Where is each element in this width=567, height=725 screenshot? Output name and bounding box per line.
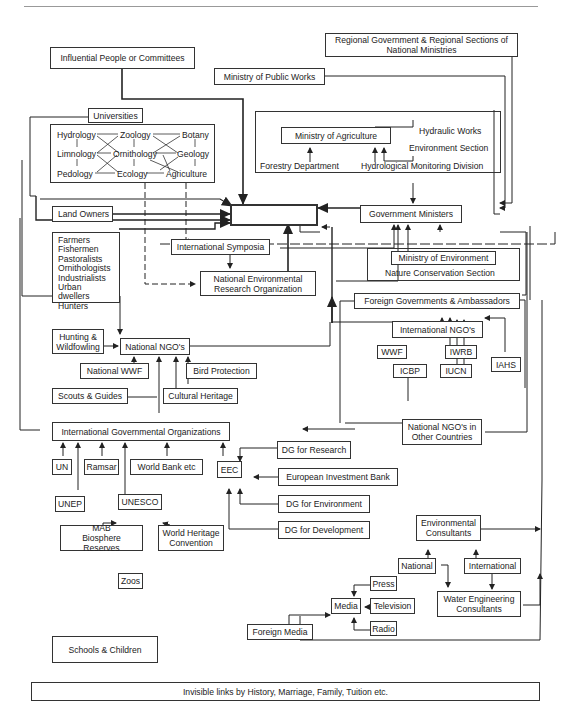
node-zoos: Zoos (118, 573, 143, 589)
node-un: UN (52, 459, 72, 475)
node-unesco: UNESCO (118, 494, 162, 510)
node-press: Press (370, 576, 397, 591)
node-european-investment-bank: European Investment Bank (278, 468, 398, 486)
node-unep: UNEP (55, 496, 85, 512)
node-hunting-wildfowling: Hunting & Wildfowling (52, 329, 104, 354)
node-eec: EEC (217, 461, 242, 478)
node-mab: MAB Biosphere Reserves (60, 525, 143, 551)
node-foreign-media: Foreign Media (247, 624, 313, 640)
node-hydrological-monitoring: Hydrological Monitoring Division (361, 161, 483, 171)
node-dg-environment: DG for Environment (278, 495, 370, 513)
node-env-consultants: Environmental Consultants (416, 515, 481, 541)
node-national-ngos: National NGO's (120, 338, 190, 355)
node-world-heritage: World Heritage Convention (158, 525, 224, 551)
node-ministry-environment: Ministry of Environment (391, 251, 496, 265)
node-icbp: ICBP (393, 364, 427, 378)
node-dg-research: DG for Research (277, 441, 351, 459)
node-international-symposia: International Symposia (171, 239, 270, 255)
node-cultural-heritage: Cultural Heritage (163, 388, 238, 404)
node-radio: Radio (370, 621, 397, 636)
node-international: International (464, 558, 521, 574)
node-ministry-agriculture: Ministry of Agriculture (281, 127, 391, 144)
node-hydraulic-works: Hydraulic Works (419, 126, 481, 136)
node-dg-development: DG for Development (278, 521, 370, 539)
node-water-engineering: Water Engineering Consultants (437, 591, 521, 617)
node-land-owners: Land Owners (52, 206, 113, 222)
node-government-ministers: Government Ministers (360, 205, 462, 223)
node-bird-protection: Bird Protection (186, 363, 257, 379)
node-schools-children: Schools & Children (52, 636, 158, 663)
node-wwf: WWF (377, 345, 407, 359)
node-foreign-governments: Foreign Governments & Ambassadors (354, 293, 520, 309)
node-international-ngos: International NGO's (392, 321, 483, 338)
node-nature-conservation: Nature Conservation Section (385, 268, 495, 278)
node-iucn: IUCN (440, 364, 472, 378)
node-national: National (398, 558, 436, 574)
node-world-bank: World Bank etc (130, 459, 203, 475)
node-national-wwf: National WWF (80, 363, 149, 379)
node-stakeholders: Farmers Fishermen Pastoralists Ornitholo… (52, 232, 120, 303)
node-iwrb: IWRB (445, 345, 477, 359)
node-forestry-department: Forestry Department (260, 161, 339, 171)
node-the-wetland (230, 204, 318, 226)
node-scouts-guides: Scouts & Guides (52, 388, 128, 404)
node-intl-gov-orgs: International Governmental Organizations (52, 422, 230, 441)
node-media: Media (331, 598, 361, 614)
node-national-env-research: National Environmental Research Organiza… (200, 271, 316, 296)
node-invisible-links: Invisible links by History, Marriage, Fa… (31, 682, 540, 701)
node-television: Television (370, 598, 415, 614)
node-environment-section: Environment Section (409, 143, 488, 153)
node-iahs: IAHS (491, 357, 521, 372)
node-national-ngos-other: National NGO's in Other Countries (402, 419, 482, 445)
node-ramsar: Ramsar (84, 459, 119, 475)
